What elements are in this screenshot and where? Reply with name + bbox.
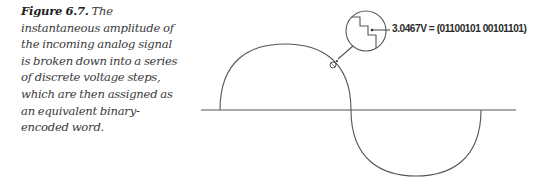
quantization-steps bbox=[346, 17, 376, 52]
positive-half-cycle bbox=[220, 44, 351, 110]
sample-cross-1 bbox=[331, 63, 335, 67]
magnifier-connector bbox=[338, 46, 353, 59]
negative-half-cycle bbox=[351, 110, 481, 176]
step-sample-dot bbox=[371, 29, 374, 32]
sample-value-annotation: 3.0467V = (01100101 00101101) bbox=[392, 22, 526, 34]
sample-dot bbox=[336, 60, 338, 62]
